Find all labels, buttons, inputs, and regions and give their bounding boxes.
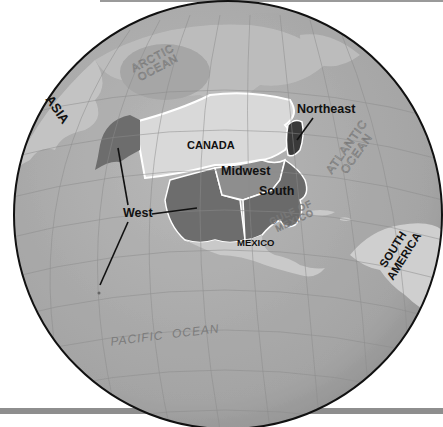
globe-graphic <box>0 0 443 427</box>
top-bar <box>100 0 443 2</box>
south-label: South <box>259 184 294 198</box>
west-label: West <box>123 206 153 220</box>
mexico-label: MEXICO <box>237 237 274 248</box>
canada-label: CANADA <box>187 139 235 151</box>
globe-map: ASIA ARCTIC OCEAN CANADA Northeast Midwe… <box>0 0 443 427</box>
midwest-label: Midwest <box>221 164 270 178</box>
northeast-label: Northeast <box>297 102 355 116</box>
